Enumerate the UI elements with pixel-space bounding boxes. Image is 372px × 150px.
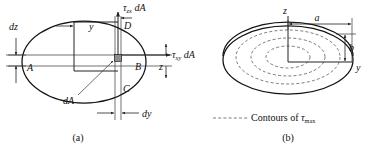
label-dz: dz [9,21,18,32]
construction-box [74,22,118,71]
label-z-axis: z [158,61,163,72]
label-point-b: B [135,61,141,72]
label-y-panel-b: y [355,62,361,73]
caption-panel-b: (b) [282,132,294,144]
panel-b: z y a b Contours of τmax (b) [213,5,361,144]
label-point-a: A [26,62,34,73]
figure-container: dz dy y z τzx dA A B C D dA τxy dA [0,0,372,150]
label-z-panel-b: z [282,5,287,16]
caption-panel-a: (a) [72,132,83,144]
label-point-c: C [123,83,130,94]
label-tau-zx-dA: τzx dA [123,2,146,14]
legend-contours-label: Contours of τmax [251,112,316,124]
label-element-dA: dA [63,95,75,106]
figure-svg: dz dy y z τzx dA A B C D dA τxy dA [0,0,372,150]
label-semi-major-a: a [315,12,320,23]
element-dA [115,55,122,62]
panel-a: dz dy y z τzx dA A B C D dA τxy dA [6,2,196,144]
legend-tau-subscript: max [305,117,317,124]
label-dy: dy [142,108,152,119]
label-point-d: D [123,20,132,31]
legend-contours-text: Contours of [251,112,299,123]
tau-zx-dA: dA [134,2,146,13]
label-tau-xy-dA: τxy dA [172,49,196,61]
label-semi-minor-b: b [349,42,354,53]
tau-xy-dA: dA [184,49,196,60]
label-y-axis: y [88,21,94,32]
